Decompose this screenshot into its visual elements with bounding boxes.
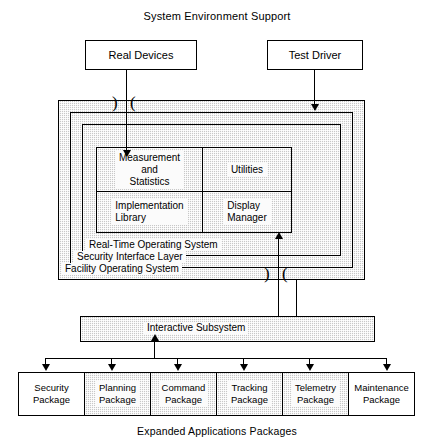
layer-facility-operating-system-label: Facility Operating System xyxy=(62,263,182,275)
arrow-real-devices-to-rtos xyxy=(123,150,131,157)
arrow-to-package-1 xyxy=(42,364,50,371)
arrow-bus-to-interactive-subsystem xyxy=(151,334,159,341)
cell-utilities: Utilities xyxy=(203,148,291,192)
expanded-applications-package-row: Security Package Planning Package Comman… xyxy=(18,372,415,416)
package-command: Command Package xyxy=(150,373,216,415)
line-jump-bracket-right: ( xyxy=(130,94,136,111)
package-maintenance-label: Maintenance Package xyxy=(351,381,411,407)
package-security: Security Package xyxy=(19,373,84,415)
arrow-to-package-3 xyxy=(174,364,182,371)
package-security-label: Security Package xyxy=(30,381,73,407)
connector-interactive-to-rtos-stem xyxy=(278,236,279,322)
connector-bus-riser xyxy=(154,341,155,358)
diagram-title: System Environment Support xyxy=(0,10,434,23)
arrow-interactive-to-rtos xyxy=(275,232,283,239)
package-command-label: Command Package xyxy=(159,381,209,407)
box-real-devices: Real Devices xyxy=(85,40,197,70)
package-telemetry-label: Telemetry Package xyxy=(292,381,339,407)
functional-module-grid: Measurement and Statistics Utilities Imp… xyxy=(96,147,292,233)
arrow-to-package-2 xyxy=(108,364,116,371)
arrow-test-driver-to-facility xyxy=(311,104,319,111)
box-interactive-subsystem-label: Interactive Subsystem xyxy=(144,322,248,334)
package-maintenance: Maintenance Package xyxy=(348,373,414,415)
arrow-to-package-5 xyxy=(306,364,314,371)
cell-implementation-library: Implementation Library xyxy=(97,192,203,232)
connector-facility-to-interactive-stem xyxy=(296,280,297,320)
layer-security-interface-layer-label: Security Interface Layer xyxy=(74,251,186,263)
arrow-to-package-6 xyxy=(383,364,391,371)
connector-real-devices-stem xyxy=(126,70,127,156)
box-test-driver-label: Test Driver xyxy=(268,41,362,69)
system-environment-support-diagram: System Environment Support Real Devices … xyxy=(0,0,434,444)
package-tracking: Tracking Package xyxy=(216,373,282,415)
line-jump-bracket-lower-left: ) xyxy=(264,265,270,282)
package-planning: Planning Package xyxy=(84,373,150,415)
box-test-driver: Test Driver xyxy=(267,40,363,70)
cell-implementation-library-label: Implementation Library xyxy=(111,199,187,225)
package-tracking-label: Tracking Package xyxy=(228,381,271,407)
package-planning-label: Planning Package xyxy=(96,381,139,407)
cell-display-manager: Display Manager xyxy=(203,192,291,232)
cell-utilities-label: Utilities xyxy=(227,163,267,177)
package-telemetry: Telemetry Package xyxy=(282,373,348,415)
cell-measurement-and-statistics: Measurement and Statistics xyxy=(97,148,203,192)
cell-display-manager-label: Display Manager xyxy=(223,199,270,225)
arrow-to-package-4 xyxy=(240,364,248,371)
package-distribution-bus xyxy=(45,358,387,359)
layer-real-time-operating-system-label: Real-Time Operating System xyxy=(86,239,221,251)
line-jump-bracket-lower-right: ( xyxy=(282,265,288,282)
line-jump-bracket-left: ) xyxy=(112,94,118,111)
box-real-devices-label: Real Devices xyxy=(86,41,196,69)
diagram-caption: Expanded Applications Packages xyxy=(0,425,434,437)
